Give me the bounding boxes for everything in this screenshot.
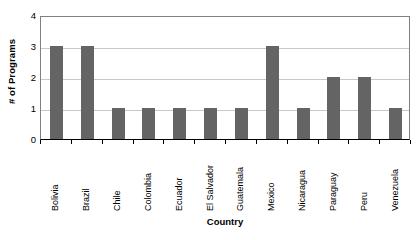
x-category-label-text: Colombia — [144, 173, 153, 211]
bar — [389, 108, 402, 139]
x-category-label-text: Ecuador — [175, 177, 184, 211]
x-category-label: El Salvador — [204, 145, 216, 213]
bar — [204, 108, 217, 139]
x-category-label-text: Paraguay — [329, 172, 338, 211]
bar — [297, 108, 310, 139]
bar — [81, 46, 94, 139]
x-tick-mark — [348, 140, 349, 144]
y-axis-tick-labels: 01234 — [24, 0, 38, 143]
bar — [112, 108, 125, 139]
x-tick-mark — [379, 140, 380, 144]
bar-series — [41, 17, 409, 139]
x-category-label-text: Venezuela — [391, 169, 400, 211]
x-category-label-text: Peru — [360, 192, 369, 211]
x-tick-mark — [133, 140, 134, 144]
x-category-label-text: Mexico — [267, 182, 276, 211]
bar — [50, 46, 63, 139]
y-tick-label: 4 — [24, 11, 36, 21]
x-category-label: Brazil — [80, 145, 92, 213]
y-axis-title: # of Programs — [0, 0, 24, 143]
x-tick-mark — [102, 140, 103, 144]
x-tick-mark — [40, 140, 41, 144]
x-tick-mark — [410, 140, 411, 144]
x-tick-mark — [287, 140, 288, 144]
x-category-label: Venezuela — [389, 145, 401, 213]
x-category-label-text: Bolivia — [51, 184, 60, 211]
y-tick-label: 2 — [24, 73, 36, 83]
bar — [266, 46, 279, 139]
bar — [358, 77, 371, 139]
y-tick-label: 0 — [24, 135, 36, 145]
bar-chart-figure: # of Programs 01234 BoliviaBrazilChileCo… — [0, 0, 420, 240]
x-tick-mark — [71, 140, 72, 144]
x-category-label: Bolivia — [49, 145, 61, 213]
y-axis-title-text: # of Programs — [7, 39, 18, 104]
bar — [142, 108, 155, 139]
x-category-label: Chile — [111, 145, 123, 213]
x-category-label: Colombia — [142, 145, 154, 213]
x-category-label-text: Guatemala — [236, 167, 245, 211]
bar — [327, 77, 340, 139]
x-category-label-text: Chile — [113, 190, 122, 211]
x-tick-mark — [318, 140, 319, 144]
bar — [173, 108, 186, 139]
bar — [235, 108, 248, 139]
x-category-label: Nicaragua — [296, 145, 308, 213]
x-axis-category-labels: BoliviaBrazilChileColombiaEcuadorEl Salv… — [40, 145, 410, 213]
y-tick-label: 3 — [24, 42, 36, 52]
x-tick-mark — [256, 140, 257, 144]
x-category-label-text: Nicaragua — [298, 170, 307, 211]
x-category-label-text: Brazil — [82, 188, 91, 211]
x-tick-mark — [194, 140, 195, 144]
x-tick-mark — [163, 140, 164, 144]
x-category-label: Guatemala — [234, 145, 246, 213]
y-tick-label: 1 — [24, 104, 36, 114]
x-category-label: Ecuador — [173, 145, 185, 213]
x-axis-tick-marks — [40, 140, 410, 144]
x-axis-title: Country — [40, 216, 410, 227]
x-tick-mark — [225, 140, 226, 144]
x-category-label: Mexico — [265, 145, 277, 213]
x-category-label: Paraguay — [327, 145, 339, 213]
x-category-label: Peru — [358, 145, 370, 213]
plot-area — [40, 16, 410, 140]
x-category-label-text: El Salvador — [206, 165, 215, 211]
